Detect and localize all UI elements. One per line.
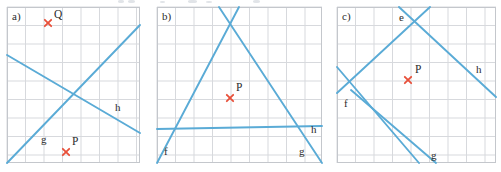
panel-c-line-e <box>351 90 436 163</box>
panel-a-line-label-g: g <box>41 133 47 145</box>
panel-b-line-label-h: h <box>311 123 317 135</box>
panel-c-grid <box>337 7 496 163</box>
panel-b-caption: b) <box>162 10 172 23</box>
panel-c-line-label-f: f <box>344 97 348 109</box>
panel-a-canvas: ghQPa) <box>0 0 501 172</box>
panel-a-caption: a) <box>12 10 21 23</box>
panel-b-canvas: fghPb) <box>0 0 501 172</box>
panel-b-point-label-p: P <box>236 81 242 93</box>
panel-c-line-label-e: e <box>399 11 404 23</box>
panel-b-grid <box>157 7 322 163</box>
panel-b-line-h <box>157 126 322 129</box>
panel-c-line-label-h: h <box>476 63 482 75</box>
panel-a-line-h <box>7 55 140 133</box>
geometry-figure: ghQPa) fghPb) efghPc) <box>0 0 501 172</box>
panel-b-line-label-g: g <box>299 145 305 157</box>
panel-b-line-label-f: f <box>164 145 168 157</box>
panel-c-line-label-g: g <box>431 149 437 161</box>
panel-c-point-marker-p <box>405 77 411 83</box>
panel-c-canvas: efghPc) <box>0 0 501 172</box>
panel-b-line-g <box>219 7 322 163</box>
panel-b-line-f <box>157 7 239 163</box>
panel-b: fghPb) <box>0 0 501 172</box>
panel-c-line-f <box>337 67 419 163</box>
panel-c-caption: c) <box>342 10 351 23</box>
panel-c-point-label-p: P <box>415 63 421 75</box>
panel-b-point-marker-p <box>227 95 233 101</box>
panel-a-point-label-p: P <box>72 135 78 147</box>
panel-a-point-marker-p <box>63 149 69 155</box>
panel-a-point-marker-q <box>45 20 51 26</box>
panel-a-line-label-h: h <box>115 101 121 113</box>
panel-c-line-h <box>399 7 496 97</box>
panel-c: efghPc) <box>0 0 501 172</box>
panel-a-point-label-q: Q <box>54 8 63 20</box>
panel-c-line-g <box>337 7 430 93</box>
cropped-text-artifact <box>0 0 501 5</box>
panel-a: ghQPa) <box>0 0 501 172</box>
panel-a-grid <box>7 7 140 163</box>
panel-a-line-g <box>7 25 140 163</box>
